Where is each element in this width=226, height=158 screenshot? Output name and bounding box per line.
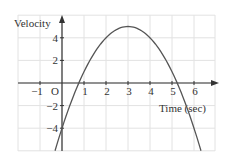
plot-area: −1123456−4−224OVelocityTime (sec) (0, 0, 226, 158)
x-tick-label: 6 (192, 85, 198, 97)
x-tick-label: 3 (126, 85, 132, 97)
x-tick-label: 5 (170, 85, 176, 97)
y-axis-arrow-icon (59, 15, 65, 23)
origin-label: O (51, 85, 59, 97)
velocity-time-graph: −1123456−4−224OVelocityTime (sec) (0, 0, 226, 158)
x-tick-label: −1 (31, 85, 43, 97)
x-tick-label: 2 (104, 85, 110, 97)
y-tick-label: 2 (53, 54, 59, 66)
y-axis-label: Velocity (14, 17, 51, 29)
y-tick-label: −2 (46, 100, 58, 112)
x-axis-label: Time (sec) (159, 102, 206, 115)
y-tick-label: 4 (53, 32, 59, 44)
x-tick-label: 4 (148, 85, 154, 97)
x-tick-label: 1 (82, 85, 88, 97)
y-tick-label: −4 (46, 122, 58, 134)
